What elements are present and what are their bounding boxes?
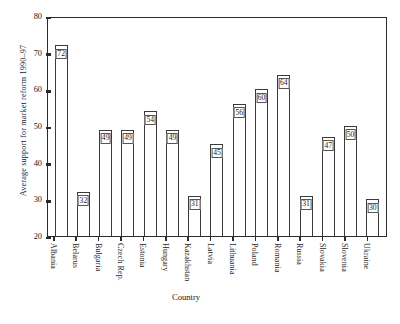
bar-value-label: 54 <box>145 115 156 126</box>
bar[interactable]: 32 <box>77 192 90 236</box>
bar[interactable]: 54 <box>144 111 157 236</box>
bar-value-label: 50 <box>345 129 356 140</box>
x-tick-label: Hungary <box>161 243 170 272</box>
x-tick-label: Slovakia <box>318 243 327 272</box>
bar[interactable]: 50 <box>344 126 357 236</box>
bar-slot: 64 <box>273 18 295 236</box>
y-tick-label: 70 <box>20 49 42 58</box>
x-tick-mark <box>277 237 279 241</box>
x-tick-mark <box>165 237 167 241</box>
x-axis-title-text: Country <box>172 292 200 302</box>
bar[interactable]: 31 <box>188 196 201 236</box>
plot-area: 20304050607080 7232494954493145566064314… <box>47 17 387 237</box>
bar-slot: 72 <box>50 18 72 236</box>
x-tick-mark <box>344 237 346 241</box>
bar-slot: 31 <box>184 18 206 236</box>
x-tick-label: Latvia <box>206 243 215 264</box>
bar-value-label: 49 <box>123 133 134 144</box>
bar-slot: 45 <box>206 18 228 236</box>
x-tick-mark <box>98 237 100 241</box>
x-tick-label: Belarus <box>71 243 80 268</box>
bar-slot: 30 <box>362 18 384 236</box>
bar[interactable]: 64 <box>277 75 290 236</box>
bar-value-label: 72 <box>56 49 67 60</box>
bar-slot: 31 <box>295 18 317 236</box>
bar-slot: 50 <box>339 18 361 236</box>
x-tick-mark <box>187 237 189 241</box>
x-tick-mark <box>255 237 257 241</box>
bar-value-label: 60 <box>256 93 267 104</box>
bar-series: 723249495449314556606431475030 <box>48 18 386 236</box>
bar-value-label: 31 <box>301 199 312 210</box>
x-tick-mark <box>210 237 212 241</box>
bar-slot: 60 <box>250 18 272 236</box>
bar[interactable]: 30 <box>366 199 379 236</box>
bar[interactable]: 49 <box>166 130 179 236</box>
x-tick-label: Poland <box>250 243 259 266</box>
x-tick-mark <box>322 237 324 241</box>
x-tick-label: Czech Rep. <box>116 243 125 281</box>
bar[interactable]: 49 <box>121 130 134 236</box>
bar-slot: 54 <box>139 18 161 236</box>
bar-slot: 47 <box>317 18 339 236</box>
bar-slot: 56 <box>228 18 250 236</box>
x-tick-label: Lithuania <box>228 243 237 275</box>
bar[interactable]: 31 <box>300 196 313 236</box>
bar-value-label: 49 <box>167 133 178 144</box>
bar-value-label: 31 <box>189 199 200 210</box>
y-tick-label: 30 <box>20 195 42 204</box>
y-tick-label: 20 <box>20 232 42 241</box>
x-axis: AlbaniaBelarusBulgariaCzech Rep.EstoniaH… <box>47 237 387 238</box>
y-tick-label: 60 <box>20 85 42 94</box>
bar-value-label: 49 <box>100 133 111 144</box>
plot-inner: 20304050607080 7232494954493145566064314… <box>48 18 386 236</box>
x-tick-label: Albania <box>49 243 58 269</box>
x-tick-mark <box>53 237 55 241</box>
bar-value-label: 30 <box>367 203 378 214</box>
bar-value-label: 47 <box>323 140 334 151</box>
bar-slot: 49 <box>117 18 139 236</box>
x-tick-label: Kazakhstan <box>183 243 192 281</box>
bar[interactable]: 49 <box>99 130 112 236</box>
bar-value-label: 56 <box>234 107 245 118</box>
x-tick-mark <box>367 237 369 241</box>
bar-value-label: 32 <box>78 195 89 206</box>
bar[interactable]: 45 <box>210 144 223 236</box>
x-tick-label: Bulgaria <box>94 243 103 271</box>
x-tick-label: Slovenia <box>340 243 349 272</box>
y-tick-label: 80 <box>20 12 42 21</box>
bar-chart-figure: Average support for market reform 1990–9… <box>0 0 400 324</box>
x-tick-label: Ukraine <box>362 243 371 269</box>
x-tick-mark <box>120 237 122 241</box>
bar-slot: 49 <box>161 18 183 236</box>
x-tick-label: Romania <box>273 243 282 273</box>
bar[interactable]: 60 <box>255 89 268 236</box>
bar-slot: 32 <box>72 18 94 236</box>
bar[interactable]: 56 <box>233 104 246 236</box>
x-axis-title: Country <box>0 292 400 302</box>
bar[interactable]: 47 <box>322 137 335 236</box>
y-tick-label: 40 <box>20 159 42 168</box>
x-tick-label: Estonia <box>138 243 147 268</box>
x-tick-mark <box>75 237 77 241</box>
bar-value-label: 45 <box>212 148 223 159</box>
x-tick-mark <box>143 237 145 241</box>
bar[interactable]: 72 <box>55 45 68 236</box>
bar-value-label: 64 <box>278 78 289 89</box>
y-tick-label: 50 <box>20 122 42 131</box>
x-tick-mark <box>232 237 234 241</box>
x-tick-mark <box>299 237 301 241</box>
bar-slot: 49 <box>95 18 117 236</box>
x-tick-label: Russia <box>295 243 304 265</box>
